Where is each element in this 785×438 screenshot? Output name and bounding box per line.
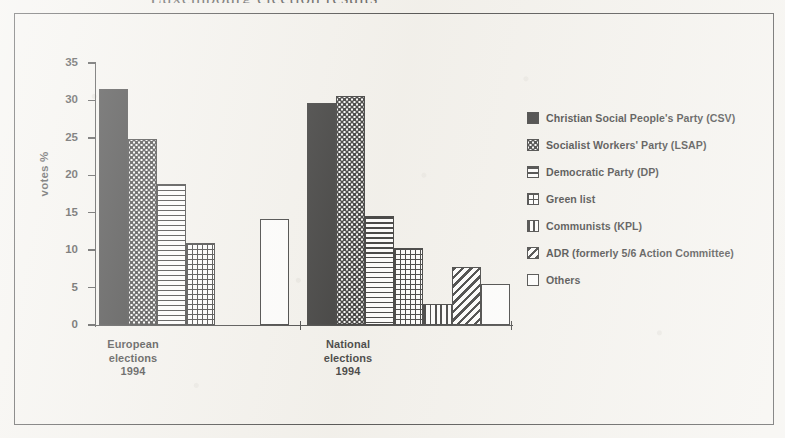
category-label-line: elections (73, 352, 193, 366)
y-tick-mark (88, 100, 96, 101)
category-label-line: 1994 (288, 365, 408, 379)
y-tick-label: 15 (48, 207, 78, 219)
y-tick-label: 25 (48, 132, 78, 144)
legend-item-label: Green list (546, 193, 595, 205)
y-tick-mark (88, 287, 96, 288)
x-axis-line (95, 325, 513, 326)
legend-item: Communists (KPL) (527, 212, 777, 239)
bar (260, 219, 289, 325)
bar (128, 139, 157, 325)
y-tick-mark (88, 212, 96, 213)
y-tick-label: 10 (48, 244, 78, 256)
x-axis-tick (511, 321, 512, 330)
y-tick-label: 35 (48, 57, 78, 69)
swatch-grid (527, 193, 539, 205)
legend-item-label: ADR (formerly 5/6 Action Committee) (546, 247, 734, 259)
category-label: Nationalelections1994 (288, 338, 408, 379)
legend-item-label: Christian Social People's Party (CSV) (546, 112, 735, 124)
swatch-empty-white (527, 274, 539, 286)
legend-item: Democratic Party (DP) (527, 158, 777, 185)
bar (336, 96, 365, 325)
category-label-line: 1994 (73, 365, 193, 379)
swatch-diagonal-hatch (527, 247, 539, 259)
bar (365, 216, 394, 325)
y-tick-label: 0 (48, 319, 78, 331)
legend-item: ADR (formerly 5/6 Action Committee) (527, 239, 777, 266)
y-tick-mark (88, 62, 96, 63)
bar (423, 304, 452, 325)
category-label-line: National (288, 338, 408, 352)
legend-item-label: Others (546, 274, 580, 286)
category-label-line: elections (288, 352, 408, 366)
bar (394, 248, 423, 325)
x-axis-tick (300, 321, 301, 330)
y-tick-mark (88, 324, 96, 325)
bar (186, 243, 215, 325)
swatch-solid-black (527, 112, 539, 124)
legend-item-label: Socialist Workers' Party (LSAP) (546, 139, 706, 151)
y-tick-mark (88, 137, 96, 138)
legend-item-label: Communists (KPL) (546, 220, 642, 232)
swatch-dotted (527, 139, 539, 151)
bar (481, 284, 510, 325)
bar (99, 89, 128, 325)
legend-item-label: Democratic Party (DP) (546, 166, 659, 178)
swatch-horizontal-lines (527, 166, 539, 178)
legend-item: Socialist Workers' Party (LSAP) (527, 131, 777, 158)
bar (452, 267, 481, 325)
legend-item: Green list (527, 185, 777, 212)
legend-item: Christian Social People's Party (CSV) (527, 104, 777, 131)
swatch-vertical-lines (527, 220, 539, 232)
category-label: Europeanelections1994 (73, 338, 193, 379)
y-tick-label: 20 (48, 169, 78, 181)
y-tick-mark (88, 249, 96, 250)
y-tick-label: 30 (48, 94, 78, 106)
scanned-page: Luxembourg election results votes % 3530… (0, 0, 785, 438)
y-tick-label: 5 (48, 282, 78, 294)
y-tick-mark (88, 175, 96, 176)
chart-legend: Christian Social People's Party (CSV)Soc… (527, 104, 777, 293)
category-label-line: European (73, 338, 193, 352)
legend-item: Others (527, 266, 777, 293)
bar (157, 184, 186, 325)
bar (307, 103, 336, 325)
